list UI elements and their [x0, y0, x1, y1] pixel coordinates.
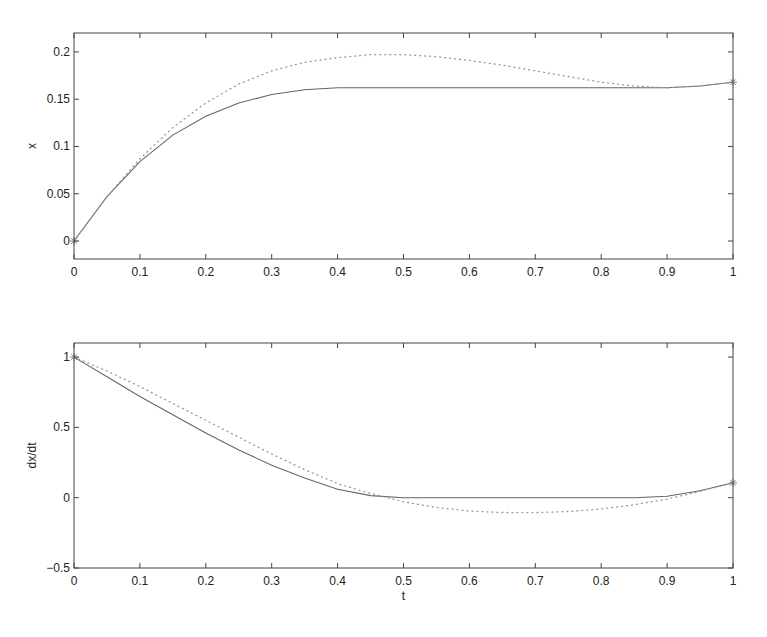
- x-tick-label: 1: [730, 265, 737, 279]
- x-tick-label: 1: [730, 574, 737, 588]
- dxdt-vs-t-plot: 00.10.20.30.40.50.60.70.80.91−0.500.51dx…: [25, 343, 737, 603]
- x-tick-label: 0.5: [395, 574, 412, 588]
- x-tick-label: 0.1: [132, 265, 149, 279]
- x-tick-label: 0.2: [197, 574, 214, 588]
- y-tick-label: 0: [63, 234, 70, 248]
- x-tick-label: 0: [71, 574, 78, 588]
- y-tick-label: 0.15: [47, 92, 71, 106]
- x-tick-label: 0.5: [395, 265, 412, 279]
- y-tick-label: 1: [63, 350, 70, 364]
- x-tick-label: 0.9: [659, 265, 676, 279]
- x-axis-label: t: [402, 589, 406, 603]
- x-tick-label: 0.6: [461, 574, 478, 588]
- x-tick-label: 0.8: [593, 265, 610, 279]
- dotted-curve: [74, 55, 733, 241]
- solid-curve: [74, 357, 733, 498]
- x-tick-label: 0: [71, 265, 78, 279]
- axes-frame: [74, 343, 733, 568]
- x-tick-label: 0.2: [197, 265, 214, 279]
- y-tick-label: −0.5: [46, 561, 70, 575]
- solid-curve: [74, 82, 733, 241]
- y-tick-label: 0.1: [53, 139, 70, 153]
- x-tick-label: 0.7: [527, 265, 544, 279]
- x-tick-label: 0.7: [527, 574, 544, 588]
- x-tick-label: 0.3: [263, 574, 280, 588]
- y-tick-label: 0.05: [47, 187, 71, 201]
- y-axis-label: dx/dt: [25, 442, 39, 469]
- x-tick-label: 0.9: [659, 574, 676, 588]
- x-tick-label: 0.6: [461, 265, 478, 279]
- figure: 00.10.20.30.40.50.60.70.80.9100.050.10.1…: [0, 0, 767, 637]
- y-axis-label: x: [25, 143, 39, 149]
- x-tick-label: 0.3: [263, 265, 280, 279]
- axes-frame: [74, 33, 733, 259]
- y-tick-label: 0.5: [53, 420, 70, 434]
- x-tick-label: 0.4: [329, 574, 346, 588]
- x-vs-t-plot: 00.10.20.30.40.50.60.70.80.9100.050.10.1…: [25, 33, 737, 279]
- y-tick-label: 0.2: [53, 45, 70, 59]
- x-tick-label: 0.8: [593, 574, 610, 588]
- y-tick-label: 0: [63, 491, 70, 505]
- x-tick-label: 0.1: [132, 574, 149, 588]
- dotted-curve: [74, 357, 733, 512]
- x-tick-label: 0.4: [329, 265, 346, 279]
